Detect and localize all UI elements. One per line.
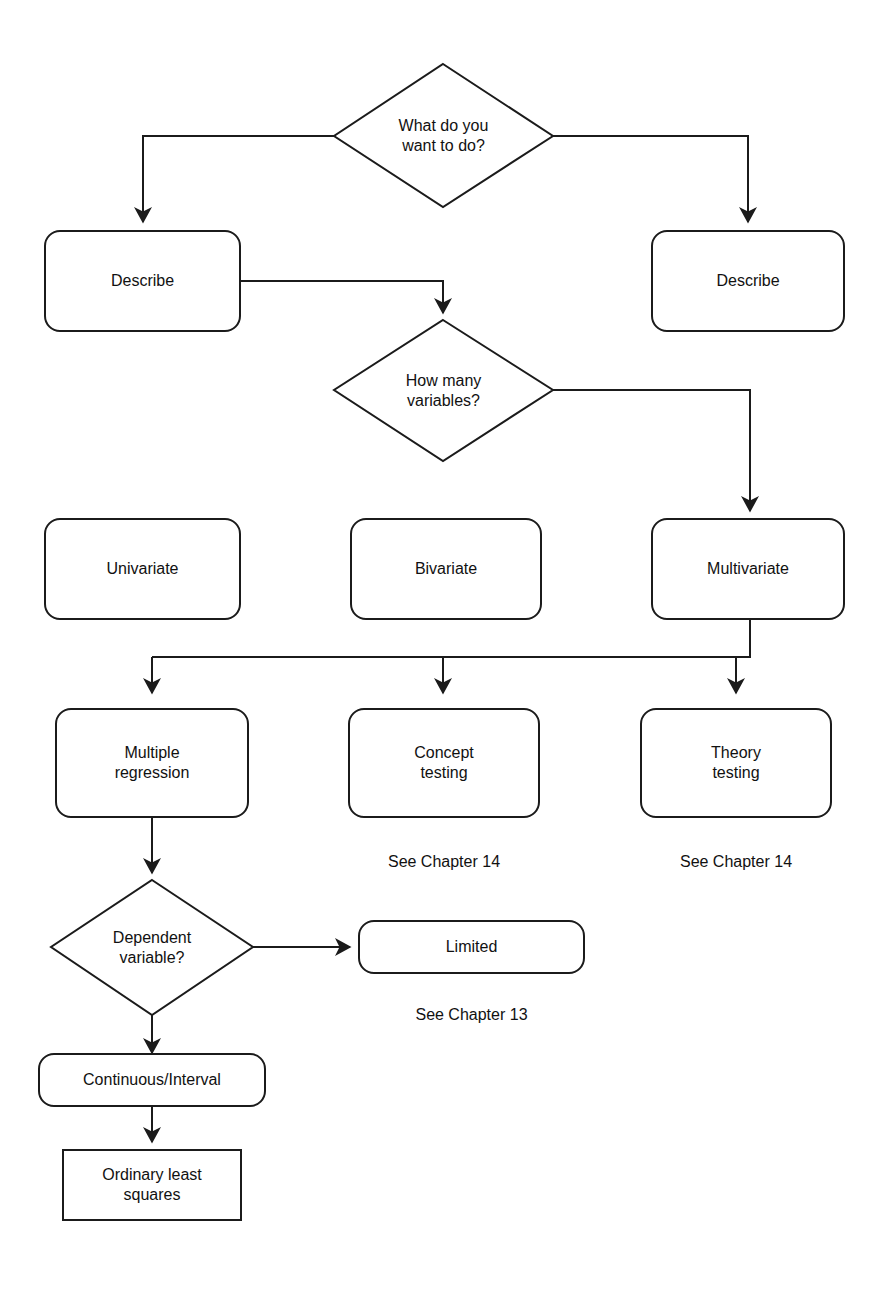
node-bivariate-label: Bivariate bbox=[415, 559, 477, 579]
node-multiple-regression-label: Multiple regression bbox=[115, 743, 190, 782]
node-bivariate[interactable]: Bivariate bbox=[350, 518, 542, 620]
edge-multivariate-to-bus bbox=[152, 620, 750, 657]
node-ordinary-least-squares-label: Ordinary least squares bbox=[102, 1165, 202, 1204]
edge-how-many-variables-to-multivariate bbox=[553, 390, 750, 511]
node-limited[interactable]: Limited bbox=[358, 920, 585, 974]
caption-theory-testing: See Chapter 14 bbox=[640, 853, 832, 871]
node-describe-left-label: Describe bbox=[111, 271, 174, 291]
node-dependent-variable[interactable]: Dependent variable? bbox=[51, 880, 253, 1015]
node-univariate-label: Univariate bbox=[106, 559, 178, 579]
node-multivariate[interactable]: Multivariate bbox=[651, 518, 845, 620]
node-concept-testing-label: Concept testing bbox=[414, 743, 474, 782]
node-describe-right[interactable]: Describe bbox=[651, 230, 845, 332]
caption-limited-label: See Chapter 13 bbox=[415, 1006, 527, 1023]
node-concept-testing[interactable]: Concept testing bbox=[348, 708, 540, 818]
node-multiple-regression[interactable]: Multiple regression bbox=[55, 708, 249, 818]
node-continuous-interval-label: Continuous/Interval bbox=[83, 1070, 221, 1090]
caption-concept-testing-label: See Chapter 14 bbox=[388, 853, 500, 870]
node-dependent-variable-label: Dependent variable? bbox=[113, 928, 191, 967]
node-multivariate-label: Multivariate bbox=[707, 559, 789, 579]
edge-what-to-do-to-describe-left bbox=[143, 136, 334, 222]
node-how-many-variables-label: How many variables? bbox=[406, 371, 482, 410]
flowchart-canvas: What do you want to do? How many variabl… bbox=[0, 0, 888, 1295]
edge-what-to-do-to-describe-right bbox=[553, 136, 748, 222]
node-univariate[interactable]: Univariate bbox=[44, 518, 241, 620]
node-what-do-you-want-to-do-label: What do you want to do? bbox=[399, 116, 489, 155]
node-describe-right-label: Describe bbox=[716, 271, 779, 291]
node-what-do-you-want-to-do[interactable]: What do you want to do? bbox=[334, 64, 553, 207]
node-how-many-variables[interactable]: How many variables? bbox=[334, 320, 553, 461]
node-ordinary-least-squares[interactable]: Ordinary least squares bbox=[62, 1149, 242, 1221]
caption-limited: See Chapter 13 bbox=[358, 1006, 585, 1024]
node-theory-testing[interactable]: Theory testing bbox=[640, 708, 832, 818]
node-describe-left[interactable]: Describe bbox=[44, 230, 241, 332]
caption-theory-testing-label: See Chapter 14 bbox=[680, 853, 792, 870]
node-theory-testing-label: Theory testing bbox=[711, 743, 761, 782]
edge-describe-left-to-how-many-variables bbox=[241, 281, 443, 313]
caption-concept-testing: See Chapter 14 bbox=[348, 853, 540, 871]
node-continuous-interval[interactable]: Continuous/Interval bbox=[38, 1053, 266, 1107]
node-limited-label: Limited bbox=[446, 937, 498, 957]
